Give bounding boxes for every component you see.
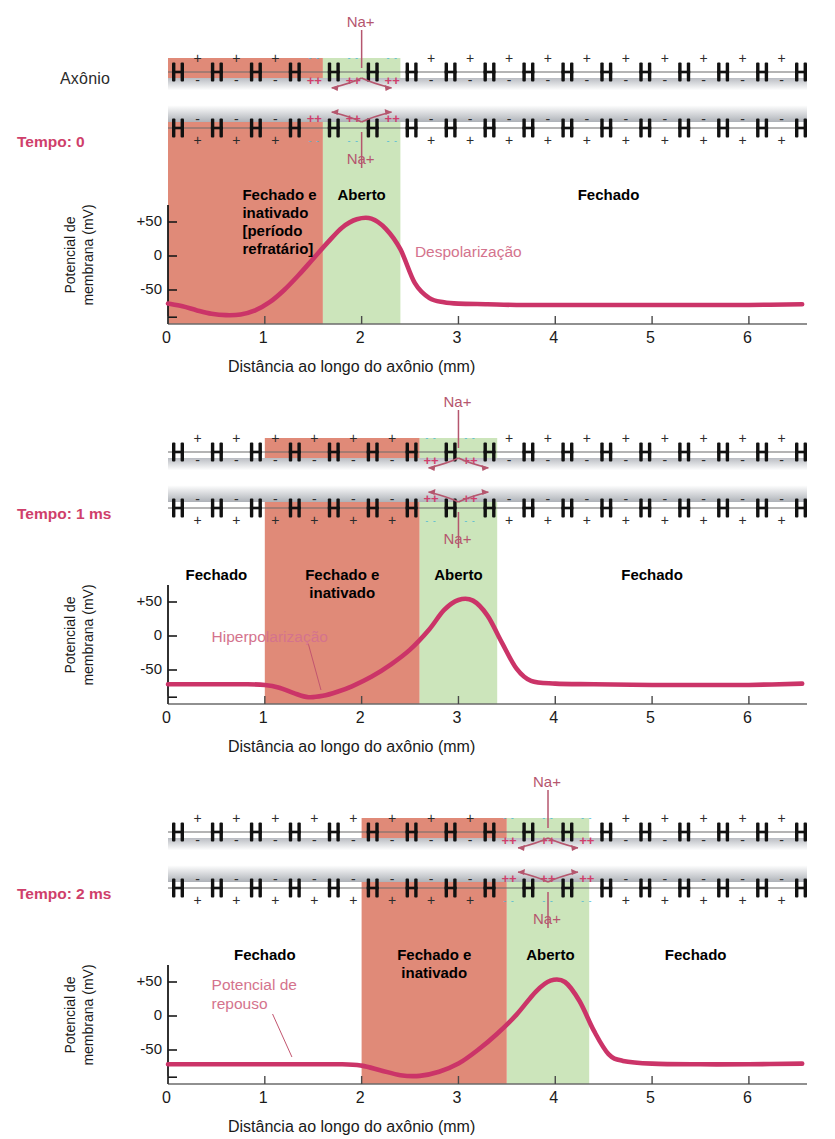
charge-inside-negative: - — [662, 111, 667, 127]
charge-inside-negative: - — [740, 491, 745, 507]
charge-outside-positive: + — [427, 50, 435, 66]
charge-inside-negative: - — [429, 111, 434, 127]
annotation-despolarizacao: Despolarização — [415, 243, 522, 262]
charge-inside-negative: - — [623, 452, 628, 468]
panel-tempo-0: +--++--++--+- -++++- -- -++++- -- -++++-… — [0, 0, 835, 379]
charge-outside-positive: + — [232, 132, 240, 148]
charge-outside-positive: + — [271, 810, 279, 826]
charge-inside-negative: - — [468, 72, 473, 88]
charge-inside-negative: - — [779, 871, 784, 887]
state-label-aberto: Aberto — [272, 186, 452, 204]
sodium-label-top: Na+ — [443, 393, 471, 410]
charge-outside-positive: + — [739, 512, 747, 528]
charge-outside-positive: + — [427, 892, 435, 908]
charge-outside-positive: + — [388, 810, 396, 826]
sodium-label-top: Na+ — [347, 13, 375, 30]
charge-inside-negative: - — [195, 452, 200, 468]
x-tick-label: 3 — [452, 1089, 461, 1107]
charge-outside-positive: + — [271, 512, 279, 528]
y-axis-title: Potencial demembrana (mV) — [62, 565, 97, 705]
charge-inside-negative: - — [351, 832, 356, 848]
charge-inside-negative: - — [662, 72, 667, 88]
charge-inside-negative: - — [585, 72, 590, 88]
charge-inside-negative: - — [507, 111, 512, 127]
y-tick-label: 0 — [106, 246, 162, 263]
charge-outside-positive: + — [777, 132, 785, 148]
x-axis-title: Distância ao longo do axônio (mm) — [228, 1118, 475, 1136]
charge-inside-negative: - — [195, 832, 200, 848]
charge-outside-negative: - - — [503, 813, 515, 823]
axon-cytoplasm — [168, 458, 807, 502]
panel-tempo-1ms: +--++--++--++--++--++--+- -++++- -- -+++… — [0, 380, 835, 759]
x-axis-title: Distância ao longo do axônio (mm) — [228, 358, 475, 376]
charge-inside-negative: - — [390, 871, 395, 887]
y-tick-label: -50 — [106, 280, 162, 297]
charge-outside-positive: + — [739, 50, 747, 66]
y-axis-title-line1: Potencial de — [62, 185, 80, 325]
charge-outside-positive: + — [583, 430, 591, 446]
charge-outside-positive: + — [349, 430, 357, 446]
charge-outside-positive: + — [622, 892, 630, 908]
y-tick-label: -50 — [106, 1040, 162, 1057]
charge-outside-positive: + — [193, 50, 201, 66]
charge-inside-negative: - — [234, 832, 239, 848]
charge-inside-negative: - — [623, 491, 628, 507]
charge-inside-positive: ++ — [579, 833, 595, 848]
charge-inside-negative: - — [546, 72, 551, 88]
axon-cytoplasm — [168, 838, 807, 882]
charge-inside-negative: - — [585, 111, 590, 127]
charge-inside-negative: - — [273, 111, 278, 127]
x-tick-label: 6 — [743, 1089, 752, 1107]
charge-outside-negative: - - — [581, 813, 593, 823]
charge-inside-negative: - — [546, 452, 551, 468]
annotation-hiperpolarizacao: Hiperpolarização — [212, 628, 328, 647]
charge-inside-negative: - — [273, 491, 278, 507]
charge-inside-negative: - — [623, 832, 628, 848]
charge-inside-negative: - — [234, 871, 239, 887]
charge-outside-negative: - - — [309, 53, 321, 63]
x-axis-title: Distância ao longo do axônio (mm) — [228, 738, 475, 756]
x-tick-label: 5 — [646, 329, 655, 347]
charge-outside-positive: + — [505, 50, 513, 66]
charge-inside-negative: - — [312, 832, 317, 848]
x-tick-label: 2 — [356, 709, 365, 727]
charge-inside-negative: - — [507, 72, 512, 88]
charge-outside-negative: - - — [503, 896, 515, 906]
x-tick-label: 6 — [743, 329, 752, 347]
charge-inside-negative: - — [701, 111, 706, 127]
charge-outside-positive: + — [583, 132, 591, 148]
sodium-label-bottom: Na+ — [347, 150, 375, 167]
charge-inside-negative: - — [468, 832, 473, 848]
charge-outside-positive: + — [193, 430, 201, 446]
charge-inside-negative: - — [546, 491, 551, 507]
charge-outside-positive: + — [388, 430, 396, 446]
charge-inside-negative: - — [507, 491, 512, 507]
charge-inside-negative: - — [429, 871, 434, 887]
x-tick-label: 3 — [452, 329, 461, 347]
charge-outside-positive: + — [427, 132, 435, 148]
charge-outside-positive: + — [739, 132, 747, 148]
charge-outside-positive: + — [777, 512, 785, 528]
charge-inside-negative: - — [585, 452, 590, 468]
charge-inside-positive: ++ — [501, 833, 517, 848]
sodium-label-bottom: Na+ — [443, 530, 471, 547]
charge-outside-positive: + — [661, 50, 669, 66]
x-tick-label: 0 — [162, 709, 171, 727]
charge-outside-positive: + — [388, 512, 396, 528]
charge-inside-negative: - — [273, 452, 278, 468]
charge-outside-positive: + — [232, 430, 240, 446]
charge-outside-positive: + — [739, 892, 747, 908]
x-tick-label: 3 — [452, 709, 461, 727]
x-tick-label: 2 — [356, 1089, 365, 1107]
charge-outside-positive: + — [777, 430, 785, 446]
charge-inside-positive: ++ — [385, 73, 401, 88]
charge-outside-positive: + — [193, 892, 201, 908]
charge-inside-negative: - — [740, 832, 745, 848]
charge-inside-negative: - — [740, 871, 745, 887]
annotation-leader-line — [273, 1014, 292, 1057]
charge-outside-positive: + — [700, 430, 708, 446]
charge-outside-positive: + — [310, 512, 318, 528]
charge-outside-positive: + — [700, 132, 708, 148]
x-tick-label: 4 — [549, 709, 558, 727]
charge-outside-positive: + — [661, 892, 669, 908]
